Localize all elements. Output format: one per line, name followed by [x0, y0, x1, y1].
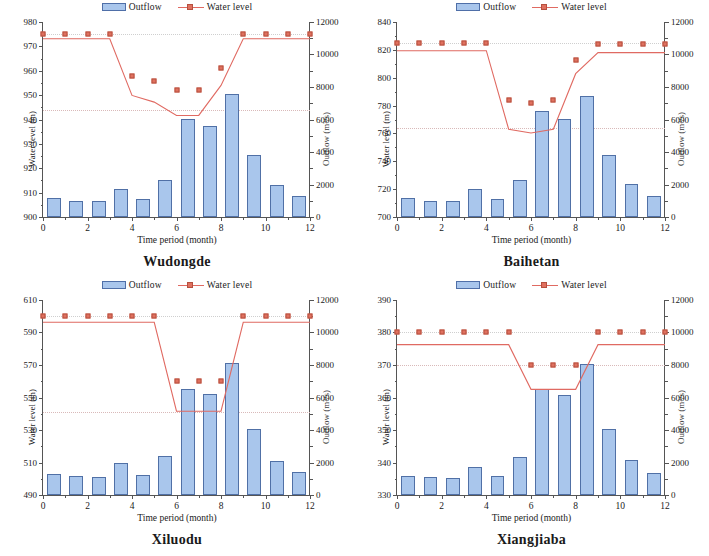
y-axis-right-tick	[310, 120, 314, 121]
y-axis-right-tick-label: 4000	[671, 147, 689, 156]
water-level-series	[43, 300, 310, 556]
y-axis-left-tick-label: 980	[24, 18, 38, 27]
legend-label-water-level: Water level	[207, 280, 252, 290]
water-level-marker	[219, 379, 224, 384]
y-axis-left-tick-label: 490	[24, 491, 38, 500]
water-level-line	[43, 322, 310, 411]
plot-frame: 4905105305505705906100200040006000800010…	[42, 300, 310, 496]
x-axis-tick	[310, 495, 311, 499]
y-axis-right-tick-label: 12000	[316, 18, 339, 27]
water-level-marker	[640, 42, 645, 47]
water-level-marker	[663, 330, 668, 335]
bar-swatch-icon	[102, 281, 126, 289]
y-axis-right-tick-label: 8000	[316, 82, 334, 91]
water-level-marker	[107, 32, 112, 37]
y-axis-left-tick-label: 950	[24, 91, 38, 100]
y-axis-left-tick-label: 550	[24, 393, 38, 402]
y-axis-right-tick	[310, 54, 314, 55]
water-level-marker	[618, 330, 623, 335]
water-level-marker	[241, 32, 246, 37]
y-axis-right-minor-tick	[665, 136, 668, 137]
x-axis-tick	[665, 495, 666, 499]
water-level-marker	[152, 78, 157, 83]
y-axis-right-tick	[665, 463, 669, 464]
legend-label-outflow: Outflow	[483, 2, 516, 12]
water-level-series	[397, 300, 665, 556]
plot-frame: 3303403503603703803900200040006000800010…	[396, 300, 665, 496]
water-level-marker	[573, 362, 578, 367]
plot-area: 3303403503603703803900200040006000800010…	[396, 300, 665, 496]
y-axis-right-tick-label: 8000	[671, 82, 689, 91]
y-axis-right-minor-tick	[310, 136, 313, 137]
legend-item-outflow: Outflow	[102, 2, 162, 12]
y-axis-right-tick	[310, 185, 314, 186]
y-axis-right-tick-label: 4000	[316, 147, 334, 156]
y-axis-right-tick-label: 6000	[316, 115, 334, 124]
water-level-marker	[63, 314, 68, 319]
water-level-marker	[196, 88, 201, 93]
bar-swatch-icon	[456, 281, 480, 289]
y-axis-left-tick-label: 330	[378, 491, 392, 500]
y-axis-right-minor-tick	[310, 349, 313, 350]
legend-label-water-level: Water level	[207, 2, 252, 12]
y-axis-right-minor-tick	[310, 414, 313, 415]
y-axis-right-tick-label: 0	[671, 213, 676, 222]
legend-item-outflow: Outflow	[102, 280, 162, 290]
y-axis-right-tick	[310, 87, 314, 88]
y-axis-right-tick	[310, 332, 314, 333]
water-level-marker	[640, 330, 645, 335]
water-level-marker	[263, 32, 268, 37]
y-axis-right-tick-label: 0	[316, 491, 321, 500]
x-axis-tick	[310, 217, 311, 221]
y-axis-right-tick	[665, 398, 669, 399]
water-level-marker	[263, 314, 268, 319]
legend-item-water-level: Water level	[532, 2, 606, 12]
water-level-marker	[529, 100, 534, 105]
legend-item-water-level: Water level	[532, 280, 606, 290]
water-level-marker	[241, 314, 246, 319]
y-axis-right-tick	[310, 22, 314, 23]
y-axis-right-minor-tick	[665, 201, 668, 202]
y-axis-right-tick	[665, 22, 669, 23]
y-axis-right-tick	[310, 430, 314, 431]
y-axis-right-tick-label: 10000	[671, 328, 694, 337]
y-axis-left-tick-label: 610	[24, 296, 38, 305]
water-level-marker	[174, 379, 179, 384]
y-axis-right-minor-tick	[665, 414, 668, 415]
water-level-marker	[484, 40, 489, 45]
y-axis-left-tick-label: 840	[378, 18, 392, 27]
water-level-marker	[308, 314, 313, 319]
y-axis-left-tick-label: 340	[378, 458, 392, 467]
y-axis-right-tick-label: 2000	[316, 458, 334, 467]
y-axis-right-tick-label: 0	[671, 491, 676, 500]
legend-item-water-level: Water level	[178, 280, 252, 290]
chart-legend: OutflowWater level	[354, 280, 709, 290]
y-axis-right-tick	[665, 365, 669, 366]
y-axis-right-tick-label: 12000	[316, 296, 339, 305]
y-axis-left-tick-label: 740	[378, 157, 392, 166]
y-axis-right-tick-label: 10000	[671, 50, 694, 59]
y-axis-right-minor-tick	[310, 38, 313, 39]
plot-frame: 7007207407607808008208400200040006000800…	[396, 22, 665, 218]
y-axis-right-tick-label: 4000	[316, 425, 334, 434]
x-axis-tick	[665, 217, 666, 221]
water-level-marker	[130, 73, 135, 78]
water-level-marker	[395, 40, 400, 45]
y-axis-right-minor-tick	[665, 381, 668, 382]
legend-label-outflow: Outflow	[129, 280, 162, 290]
plot-frame: 9009109209309409509609709800200040006000…	[42, 22, 310, 218]
y-axis-right-tick-label: 2000	[671, 458, 689, 467]
line-marker-swatch-icon	[178, 281, 204, 289]
chart-panel-xiangjiaba: OutflowWater levelWater level (m)Outflow…	[354, 278, 709, 556]
y-axis-right-minor-tick	[665, 71, 668, 72]
y-axis-left-tick-label: 370	[378, 360, 392, 369]
water-level-marker	[417, 330, 422, 335]
water-level-marker	[285, 32, 290, 37]
chart-legend: OutflowWater level	[0, 2, 354, 12]
y-axis-left-tick-label: 510	[24, 458, 38, 467]
y-axis-left-tick-label: 720	[378, 185, 392, 194]
water-level-marker	[417, 40, 422, 45]
legend-label-water-level: Water level	[561, 2, 606, 12]
water-level-marker	[618, 42, 623, 47]
y-axis-right-tick	[665, 300, 669, 301]
